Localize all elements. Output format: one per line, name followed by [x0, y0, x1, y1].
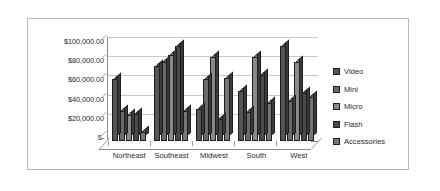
bar-side-face — [271, 96, 275, 136]
bar-group — [276, 45, 318, 141]
legend-swatch-icon — [333, 103, 340, 110]
chart-container: $100,000.00$80,000.00$60,000.00$40,000.0… — [27, 18, 409, 170]
bar-side-face — [145, 126, 149, 136]
bar-side-face — [215, 51, 219, 136]
bar-side-face — [187, 105, 191, 136]
bar[interactable] — [140, 132, 146, 141]
bar[interactable] — [238, 91, 244, 141]
legend-item[interactable]: Micro — [333, 98, 405, 116]
chart-legend: VideoMiniMicroFlashAccessories — [333, 63, 405, 151]
bar-side-face — [124, 105, 128, 136]
x-axis-label: West — [278, 151, 320, 165]
bar-side-face — [264, 68, 268, 136]
x-axis-label: Midwest — [193, 151, 235, 165]
x-axis-tick — [150, 141, 151, 146]
bar-side-face — [313, 90, 317, 136]
legend-label: Mini — [344, 85, 358, 94]
legend-item[interactable]: Flash — [333, 116, 405, 134]
x-axis-tick — [234, 141, 235, 146]
bar-side-face — [173, 48, 177, 136]
bar-side-face — [117, 72, 121, 136]
bar[interactable] — [112, 79, 118, 141]
x-axis-tick — [192, 141, 193, 146]
y-axis-tick-label: $- — [32, 133, 104, 142]
legend-swatch-icon — [333, 86, 340, 93]
y-axis-labels: $100,000.00$80,000.00$60,000.00$40,000.0… — [28, 19, 104, 171]
gridline — [108, 37, 318, 38]
x-axis-label: Southeast — [150, 151, 192, 165]
bar-group — [108, 45, 150, 141]
bar-side-face — [257, 51, 261, 136]
x-axis-tick — [108, 141, 109, 146]
bar-groups — [108, 45, 318, 141]
x-axis-tick — [276, 141, 277, 146]
bar-group — [192, 45, 234, 141]
legend-item[interactable]: Mini — [333, 81, 405, 99]
x-axis-ticks — [108, 141, 320, 146]
legend-swatch-icon — [333, 138, 340, 145]
x-axis-label: Northeast — [108, 151, 150, 165]
plot-wrapper: $100,000.00$80,000.00$60,000.00$40,000.0… — [28, 19, 410, 171]
bar-group — [150, 45, 192, 141]
y-axis-tick-label: $80,000.00 — [32, 56, 104, 65]
bar-side-face — [222, 112, 226, 136]
legend-label: Accessories — [344, 137, 385, 146]
legend-swatch-icon — [333, 121, 340, 128]
bar[interactable] — [196, 109, 202, 141]
bar-side-face — [292, 94, 296, 136]
legend-label: Flash — [344, 120, 363, 129]
bar[interactable] — [154, 66, 160, 141]
legend-item[interactable]: Video — [333, 63, 405, 81]
bar-group — [234, 45, 276, 141]
y-axis-tick-label: $100,000.00 — [32, 37, 104, 46]
bar-side-face — [201, 103, 205, 136]
bar-side-face — [138, 108, 142, 136]
bar-side-face — [166, 56, 170, 136]
x-axis-labels: NortheastSoutheastMidwestSouthWest — [108, 151, 320, 165]
y-axis-tick-label: $20,000.00 — [32, 113, 104, 122]
bar-side-face — [229, 71, 233, 136]
bar-side-face — [159, 60, 163, 136]
x-axis-label: South — [235, 151, 277, 165]
legend-swatch-icon — [333, 68, 340, 75]
legend-label: Micro — [344, 102, 363, 111]
bar-side-face — [250, 106, 254, 136]
bar-side-face — [299, 56, 303, 136]
bar-side-face — [131, 108, 135, 136]
plot-area — [108, 45, 318, 141]
legend-item[interactable]: Accessories — [333, 133, 405, 151]
bar-side-face — [180, 39, 184, 136]
legend-label: Video — [344, 67, 363, 76]
y-axis-tick-label: $60,000.00 — [32, 75, 104, 84]
y-axis-tick-label: $40,000.00 — [32, 94, 104, 103]
bar-side-face — [285, 39, 289, 136]
bar[interactable] — [280, 46, 286, 141]
bar-side-face — [243, 84, 247, 136]
bar-side-face — [208, 72, 212, 136]
bar-side-face — [306, 86, 310, 136]
